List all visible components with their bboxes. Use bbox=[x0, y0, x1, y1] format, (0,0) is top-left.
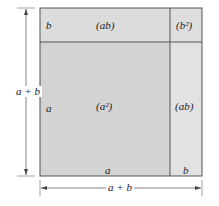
label-b-squared: (b²) bbox=[176, 20, 192, 31]
label-bottom-a: a bbox=[105, 165, 111, 176]
label-left-a: a bbox=[46, 103, 52, 114]
label-top-ab: (ab) bbox=[96, 20, 114, 31]
label-a-squared: (a²) bbox=[96, 101, 112, 112]
dimension-horizontal: a + b bbox=[106, 182, 134, 193]
label-bottom-b: b bbox=[183, 165, 189, 176]
label-right-ab: (ab) bbox=[175, 101, 193, 112]
dimension-vertical: a + b bbox=[14, 86, 42, 97]
label-top-left-b: b bbox=[46, 20, 52, 31]
